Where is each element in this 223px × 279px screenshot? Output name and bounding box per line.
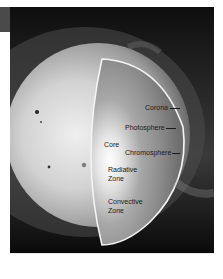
label-convective-zone-1: Convective [108,197,143,206]
label-radiative-zone-1: Radiative [108,165,137,174]
label-radiative-zone-2: Zone [108,174,124,183]
label-core: Core [104,140,119,149]
figure-bottom-edge [10,253,214,254]
label-convective-zone-2: Zone [108,206,124,215]
sun-cutaway-diagram: Corona Photosphere Core Chromosphere Rad… [10,7,214,253]
pointer-chromosphere [172,153,180,154]
label-chromosphere: Chromosphere [125,148,171,157]
label-photosphere: Photosphere [125,123,165,132]
sun-illustration [10,7,214,253]
label-corona: Corona [145,103,168,112]
pointer-corona [170,108,180,109]
pointer-photosphere [166,128,176,129]
